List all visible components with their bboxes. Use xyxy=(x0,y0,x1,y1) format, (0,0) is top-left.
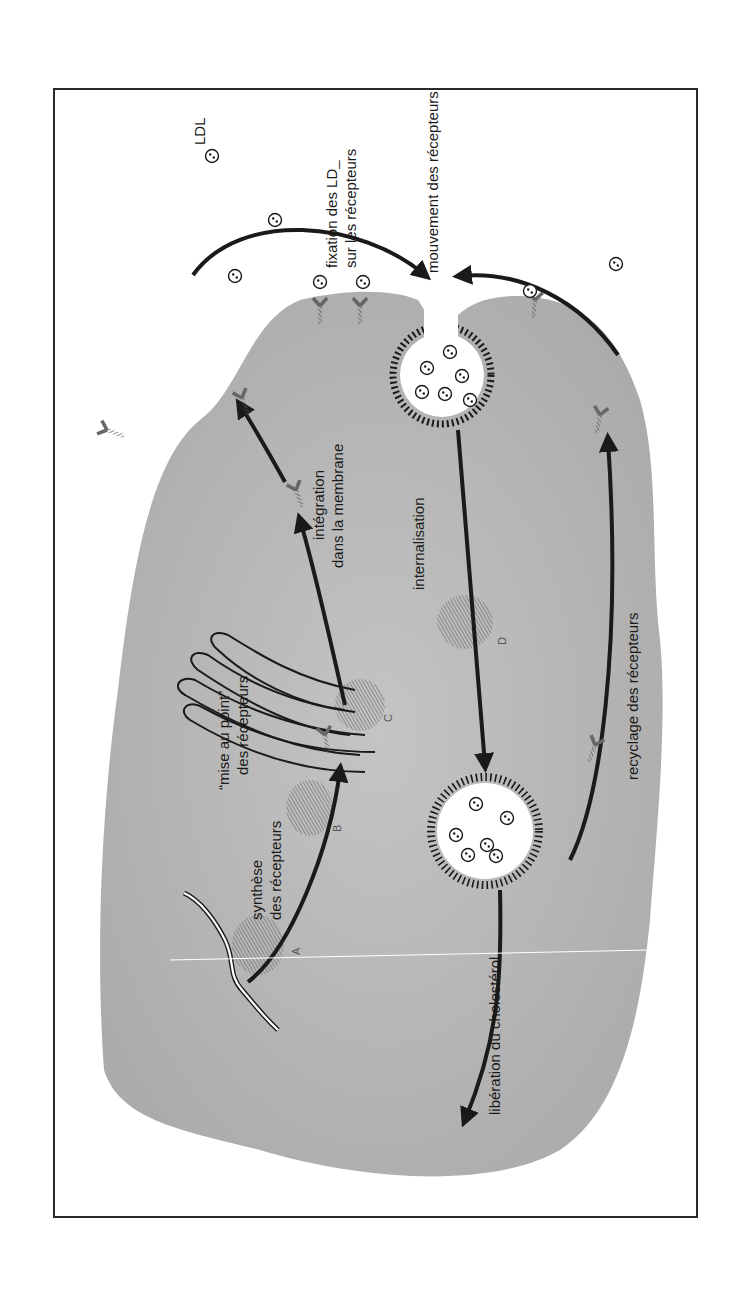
marker-b: B xyxy=(331,825,343,832)
ldl-particle-icon xyxy=(314,276,327,289)
ldl-particle-icon xyxy=(229,270,242,283)
ldl-particle-icon xyxy=(462,849,475,862)
label-maturation-1: “mise au point” xyxy=(215,691,232,790)
ldl-particle-icon xyxy=(481,839,494,852)
ldl-particles-free xyxy=(206,150,623,298)
receptor-icon xyxy=(97,421,126,443)
ldl-particle-icon xyxy=(456,370,469,383)
ldl-particle-icon xyxy=(269,214,282,227)
marker-a: A xyxy=(290,947,302,955)
ldl-particle-icon xyxy=(444,346,457,359)
cell-body xyxy=(100,292,663,1177)
label-binding-2: sur les récepteurs xyxy=(342,149,359,268)
ldl-particle-icon xyxy=(450,829,463,842)
label-maturation-2: des récepteurs xyxy=(234,676,251,775)
organelle-a xyxy=(232,915,284,975)
ldl-particle-icon xyxy=(490,850,503,863)
label-synthesis-2: des récepteurs xyxy=(267,821,284,920)
label-binding-1: fixation des LD_ xyxy=(323,160,340,268)
ldl-particle-icon xyxy=(416,386,429,399)
ldl-particle-icon xyxy=(206,150,219,163)
ldl-particle-icon xyxy=(357,276,370,289)
ldl-particle-icon xyxy=(421,362,434,375)
marker-c: C xyxy=(382,714,394,722)
ldl-receptor-cycle-diagram: A B C D xyxy=(0,0,742,1290)
ldl-particle-icon xyxy=(439,388,452,401)
arrow-binding xyxy=(193,230,425,275)
label-integration-2: dans la membrane xyxy=(329,444,346,568)
ldl-particle-icon xyxy=(464,394,477,407)
label-ldl: LDL xyxy=(191,117,208,145)
ldl-particle-icon xyxy=(610,258,623,271)
label-release: libération du cholestérol xyxy=(486,957,503,1115)
label-integration-1: intégration xyxy=(310,470,327,540)
label-recycling: recyclage des récepteurs xyxy=(624,612,641,780)
ldl-particle-icon xyxy=(470,798,483,811)
marker-d: D xyxy=(496,637,508,645)
label-internalisation: internalisation xyxy=(410,497,427,590)
label-synthesis-1: synthèse xyxy=(248,860,265,920)
label-movement: mouvement des récepteurs xyxy=(424,91,441,273)
organelle-d xyxy=(437,595,493,649)
ldl-particle-icon xyxy=(501,812,514,825)
ldl-particle-icon xyxy=(524,285,537,298)
